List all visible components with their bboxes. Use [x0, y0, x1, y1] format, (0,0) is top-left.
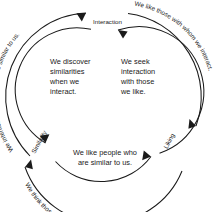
inner-text-line: we like. — [120, 87, 146, 96]
outer-label-liking-to-similarity: We think those we like are similar to us… — [24, 181, 119, 212]
inner-text-similarity-to-liking: We like people who are similar to us. — [73, 148, 137, 167]
cycle-diagram-canvas: We interact with those who are similar t… — [0, 0, 215, 212]
inner-text-line: are similar to us. — [78, 158, 132, 167]
inner-text-line: with those — [120, 77, 154, 86]
cycle-diagram: We interact with those who are similar t… — [0, 0, 215, 212]
arrowhead-icon — [25, 160, 33, 170]
outer-label-similarity-to-interaction: We interact with those who are similar t… — [0, 30, 21, 153]
inner-text-line: interact. — [50, 87, 76, 96]
inner-text-interaction-to-similarity: We discover similarities when we interac… — [49, 57, 91, 96]
outer-arrow-liking-to-similarity — [25, 160, 182, 213]
inner-text-line: We discover — [50, 57, 91, 66]
inner-text-line: when we — [49, 77, 79, 86]
node-label-interaction: Interaction — [93, 18, 122, 25]
arrowhead-icon — [118, 30, 128, 38]
inner-text-group: We discover similarities when we interac… — [49, 57, 155, 167]
outer-ring-group: We interact with those who are similar t… — [0, 0, 215, 212]
inner-text-line: We like people who — [73, 148, 137, 157]
arrowhead-icon — [77, 13, 87, 22]
inner-text-line: interaction — [121, 67, 155, 76]
inner-text-line: similarities — [50, 67, 85, 76]
inner-text-line: We seek — [121, 57, 150, 66]
inner-text-liking-to-interaction: We seek interaction with those we like. — [120, 57, 155, 96]
